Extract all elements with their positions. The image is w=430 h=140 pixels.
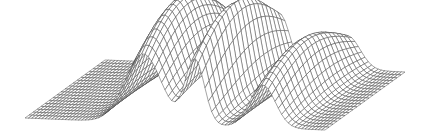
mesh-group [25,0,405,130]
surface-plot [0,0,430,140]
wireframe-surface [0,0,430,140]
